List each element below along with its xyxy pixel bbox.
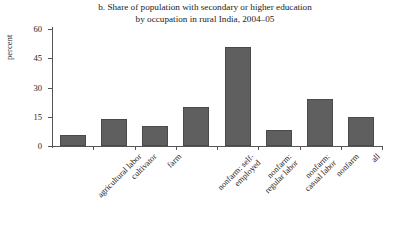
x-axis-tick xyxy=(341,146,342,150)
x-axis-category-label: nonfarm: regular labor xyxy=(256,152,300,196)
x-axis-tick xyxy=(300,146,301,150)
x-axis-labels: agricultural laborcultivatorfarmnonfarm:… xyxy=(0,0,398,229)
chart-figure: b. Share of population with secondary or… xyxy=(0,0,398,229)
x-axis-tick xyxy=(176,146,177,150)
x-axis-category-label: nonfarm: casual labor xyxy=(297,152,339,194)
x-axis-tick xyxy=(217,146,218,150)
x-axis-tick xyxy=(382,146,383,150)
x-axis-tick xyxy=(93,146,94,150)
x-axis-category-label: all xyxy=(370,152,383,165)
x-axis-category-label: nonfarm: self- employed xyxy=(216,152,263,199)
x-axis-tick xyxy=(135,146,136,150)
x-axis-category-label: farm xyxy=(166,152,184,170)
x-axis-tick xyxy=(258,146,259,150)
